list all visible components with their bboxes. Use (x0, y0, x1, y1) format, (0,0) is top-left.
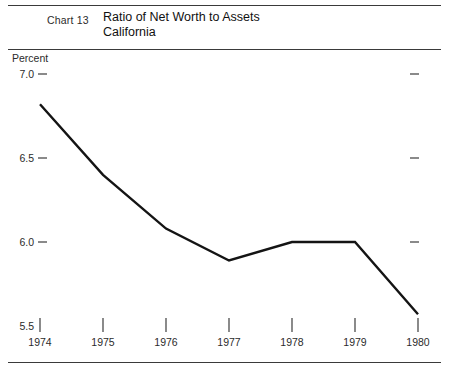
chart-page: Chart 13 Ratio of Net Worth to Assets Ca… (0, 0, 449, 375)
y-axis-right-ticks (410, 74, 419, 242)
data-series-line (40, 104, 418, 314)
x-axis-ticks (40, 318, 418, 332)
y-axis-left-ticks (38, 74, 47, 242)
chart-plot-area (0, 0, 449, 375)
